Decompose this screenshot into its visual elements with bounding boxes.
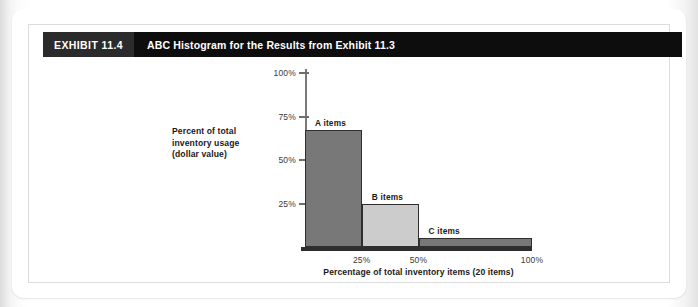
y-axis-title-line-2: inventory usage xyxy=(172,138,284,150)
exhibit-card: EXHIBIT 11.4 ABC Histogram for the Resul… xyxy=(12,9,686,298)
y-tick-label: 75% xyxy=(278,112,296,122)
histogram-bar xyxy=(305,130,362,247)
exhibit-number-badge: EXHIBIT 11.4 xyxy=(43,32,134,57)
bar-label: C items xyxy=(429,226,460,236)
x-tick-label: 50% xyxy=(410,255,428,265)
histogram-bar xyxy=(362,204,419,248)
histogram-bar xyxy=(419,238,533,247)
y-tick-label: 50% xyxy=(278,155,296,165)
y-tick-label: 25% xyxy=(278,199,296,209)
bar-label: B items xyxy=(372,192,403,202)
y-tick-label: 100% xyxy=(273,68,296,78)
exhibit-title: ABC Histogram for the Results from Exhib… xyxy=(134,32,395,57)
y-axis-title: Percent of total inventory usage (dollar… xyxy=(172,126,284,161)
bar-label: A items xyxy=(315,118,346,128)
y-tick-mark xyxy=(299,72,309,74)
x-axis-title: Percentage of total inventory items (20 … xyxy=(305,267,532,277)
y-axis-title-line-3: (dollar value) xyxy=(172,149,284,161)
abc-histogram-chart: Percent of total inventory usage (dollar… xyxy=(172,64,552,289)
page-background: EXHIBIT 11.4 ABC Histogram for the Resul… xyxy=(0,0,698,307)
exhibit-title-bar: EXHIBIT 11.4 ABC Histogram for the Resul… xyxy=(43,32,682,57)
y-tick-mark xyxy=(299,116,309,118)
x-tick-label: 25% xyxy=(353,255,371,265)
plot-area: 25%50%75%100% 25%50%100% A itemsB itemsC… xyxy=(305,69,532,249)
y-axis-title-line-1: Percent of total xyxy=(172,126,284,138)
x-axis-line xyxy=(301,247,532,251)
x-tick-label: 100% xyxy=(521,255,544,265)
